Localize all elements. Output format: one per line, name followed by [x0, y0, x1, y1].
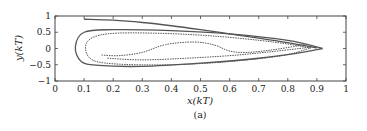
series-upper-branch — [84, 19, 317, 48]
x-tick-label: 0.1 — [77, 84, 91, 94]
y-tick-label: 0.5 — [37, 27, 52, 37]
x-tick-label: 0.5 — [193, 84, 208, 94]
y-axis-title: y(kT) — [13, 35, 24, 62]
x-tick-label: 0.8 — [281, 84, 296, 94]
x-tick-label: 1 — [343, 84, 349, 94]
chart: 00.10.20.30.40.50.60.70.80.91 10.50−0.5−… — [0, 0, 367, 131]
x-tick-label: 0.3 — [135, 84, 150, 94]
x-tick-label: 0.9 — [310, 84, 325, 94]
series-second-loop — [85, 33, 311, 65]
figure-caption: (a) — [193, 109, 206, 120]
y-tick-label: 0 — [45, 44, 51, 54]
y-tick-label: −0.5 — [29, 60, 51, 70]
x-axis-title: x(kT) — [187, 95, 213, 106]
x-tick-label: 0.7 — [252, 84, 267, 94]
y-tick-label: 1 — [45, 11, 51, 21]
x-tick-label: 0.4 — [164, 84, 179, 94]
curves-group — [75, 19, 322, 66]
x-axis: 00.10.20.30.40.50.60.70.80.91 — [52, 16, 349, 94]
x-tick-label: 0.2 — [106, 84, 120, 94]
x-tick-label: 0.6 — [222, 84, 237, 94]
y-tick-label: −1 — [38, 76, 51, 86]
x-tick-label: 0 — [52, 84, 58, 94]
series-inner-spiral — [102, 42, 306, 56]
series-inner-band — [107, 47, 311, 60]
